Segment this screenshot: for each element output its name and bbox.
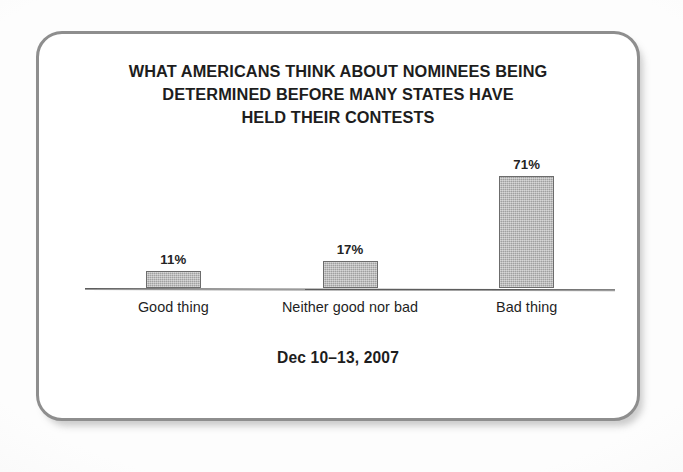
- chart-title: WHAT AMERICANS THINK ABOUT NOMINEES BEIN…: [54, 60, 622, 129]
- category-label-neither-good-nor-bad: Neither good nor bad: [262, 299, 439, 315]
- scanned-page: WHAT AMERICANS THINK ABOUT NOMINEES BEIN…: [0, 0, 683, 472]
- x-axis-tick-labels: Good thing Neither good nor bad Bad thin…: [85, 299, 615, 315]
- chart-card: WHAT AMERICANS THINK ABOUT NOMINEES BEIN…: [36, 31, 640, 421]
- chart-title-line-3: HELD THEIR CONTESTS: [54, 106, 622, 129]
- bar-neither-good-nor-bad: [323, 261, 378, 288]
- category-label-bad-thing: Bad thing: [438, 299, 615, 315]
- chart-title-line-1: WHAT AMERICANS THINK ABOUT NOMINEES BEIN…: [54, 60, 622, 83]
- plot-area: 11% 17% 71% Good thing Neither good nor …: [39, 142, 643, 332]
- bar-group-neither-good-nor-bad: 17%: [262, 142, 439, 288]
- bar-bad-thing: [499, 176, 554, 288]
- category-label-good-thing: Good thing: [85, 299, 262, 315]
- bar-value-label: 17%: [337, 242, 364, 257]
- x-axis-baseline: [85, 288, 615, 291]
- chart-title-line-2: DETERMINED BEFORE MANY STATES HAVE: [54, 83, 622, 106]
- bar-series: 11% 17% 71%: [85, 142, 615, 288]
- bar-group-bad-thing: 71%: [438, 142, 615, 288]
- bar-group-good-thing: 11%: [85, 142, 262, 288]
- bar-value-label: 71%: [513, 157, 540, 172]
- chart-footnote: Dec 10–13, 2007: [39, 349, 637, 367]
- bar-value-label: 11%: [160, 252, 186, 267]
- bar-good-thing: [146, 271, 201, 288]
